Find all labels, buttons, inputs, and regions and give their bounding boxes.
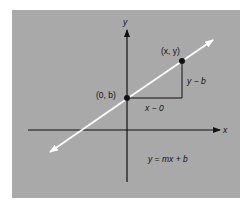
point-intercept-label: (0, b) bbox=[96, 91, 116, 100]
y-axis-label: y bbox=[123, 18, 127, 27]
point-general-label: (x, y) bbox=[161, 47, 180, 56]
equation-label: y = mx + b bbox=[148, 155, 188, 164]
point-intercept bbox=[124, 95, 130, 101]
x-axis-label: x bbox=[223, 126, 227, 135]
slope-intercept-diagram: y x (x, y) (0, b) y − b x − 0 y = mx + b bbox=[0, 0, 249, 206]
run-label: x − 0 bbox=[145, 104, 164, 113]
point-general bbox=[179, 58, 185, 64]
plot-graphics bbox=[0, 0, 249, 206]
linear-function-line-lower bbox=[50, 96, 131, 152]
rise-label: y − b bbox=[187, 77, 206, 86]
